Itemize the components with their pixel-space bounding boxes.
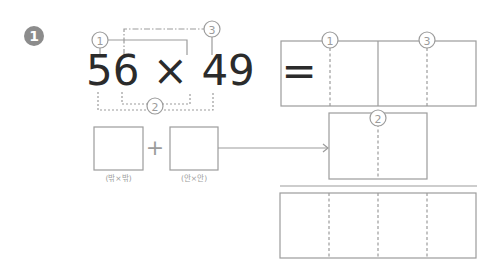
operator: × bbox=[153, 46, 188, 95]
marker-2-box: 2 bbox=[370, 110, 386, 126]
plus-sign: + bbox=[146, 135, 164, 160]
partial-box-outer bbox=[94, 127, 143, 170]
marker-1-box: 1 bbox=[322, 32, 338, 48]
svg-text:1: 1 bbox=[327, 35, 334, 48]
svg-text:3: 3 bbox=[424, 35, 431, 48]
multiplication-equation: 56 × 49 = bbox=[86, 46, 317, 96]
right-operand: 49 bbox=[201, 46, 254, 95]
diagram-canvas: 1 1 3 2 + (밖×밖) (안×안) bbox=[0, 0, 497, 276]
marker-3-top: 3 bbox=[204, 21, 220, 37]
svg-text:2: 2 bbox=[152, 101, 159, 114]
inner-product-label: (안×안) bbox=[181, 173, 207, 183]
partial-box-inner bbox=[170, 127, 218, 170]
answer-row-result bbox=[280, 193, 476, 258]
svg-text:3: 3 bbox=[209, 24, 216, 37]
equals-sign: = bbox=[282, 46, 317, 95]
outer-product-label: (밖×밖) bbox=[105, 173, 131, 183]
problem-number: 1 bbox=[29, 28, 39, 44]
problem-number-badge: 1 bbox=[24, 26, 44, 46]
marker-2-bottom: 2 bbox=[147, 98, 163, 114]
svg-text:2: 2 bbox=[375, 113, 382, 126]
left-operand: 56 bbox=[86, 46, 139, 95]
marker-3-box: 3 bbox=[419, 32, 435, 48]
arrow-icon bbox=[218, 144, 328, 152]
